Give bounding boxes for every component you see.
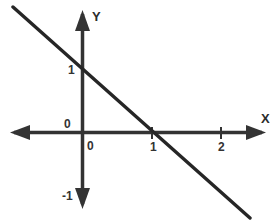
y-axis-up-arrow-icon (75, 10, 90, 31)
y-tick-label-1: 1 (68, 64, 75, 76)
y-tick-label-neg-1: -1 (62, 190, 73, 202)
origin-label-lower: 0 (87, 140, 94, 152)
y-axis-down-arrow-icon (75, 188, 90, 209)
x-tick-label-2: 2 (218, 141, 225, 153)
plotted-line-series (13, 7, 250, 218)
coordinate-graph-figure: Y X 0 0 1 -1 1 2 (0, 0, 277, 220)
x-axis-right-arrow-icon (246, 125, 266, 140)
origin-label-upper: 0 (64, 118, 71, 130)
x-tick-label-1: 1 (150, 141, 157, 153)
graph-canvas (0, 0, 277, 220)
x-axis-left-arrow-icon (10, 125, 30, 140)
x-axis-label: X (261, 112, 270, 125)
y-axis-label: Y (92, 10, 101, 23)
